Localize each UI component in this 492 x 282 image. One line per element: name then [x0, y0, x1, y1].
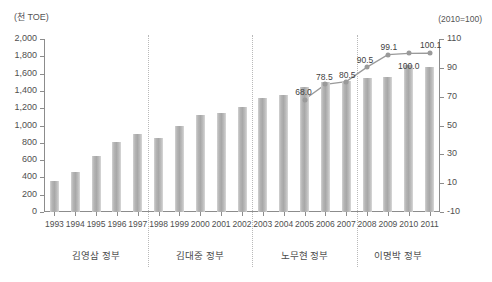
- y2-axis-tick-label: 30: [447, 148, 477, 158]
- bar: [258, 98, 267, 212]
- x-axis-tick: [367, 212, 368, 216]
- chart-root: (천 TOE) (2010=100) 2,0001,8001,6001,4001…: [0, 0, 492, 282]
- y2-axis-tick-label: 50: [447, 120, 477, 130]
- trend-point: [406, 51, 411, 56]
- y-axis-tick: [40, 91, 44, 92]
- x-axis-tick: [388, 212, 389, 216]
- y2-axis-tick-label: 90: [447, 62, 477, 72]
- x-axis-tick-label: 2011: [413, 219, 447, 229]
- x-axis-tick: [430, 212, 431, 216]
- y-axis-tick-label: 0: [1, 206, 37, 216]
- trend-point: [385, 52, 390, 57]
- y-axis-tick: [40, 108, 44, 109]
- trend-point-value-label: 68.0: [295, 87, 312, 97]
- group-divider: [252, 35, 253, 267]
- y2-axis-tick: [440, 212, 444, 213]
- bar: [217, 113, 226, 212]
- x-axis-tick: [200, 212, 201, 216]
- x-axis-tick: [54, 212, 55, 216]
- x-axis-tick: [263, 212, 264, 216]
- group-label: 김대중 정부: [140, 248, 260, 262]
- x-axis-tick: [179, 212, 180, 216]
- left-axis-unit-label: (천 TOE): [14, 10, 49, 23]
- group-divider: [357, 35, 358, 267]
- bar: [112, 142, 121, 212]
- bar: [383, 77, 392, 212]
- x-axis-tick: [221, 212, 222, 216]
- y-axis-tick-label: 2,000: [1, 33, 37, 43]
- right-axis-unit-label: (2010=100): [438, 14, 482, 24]
- trend-point-value-label: 100.1: [420, 40, 441, 50]
- bar: [133, 134, 142, 212]
- y2-axis-tick-label: -10: [447, 206, 477, 216]
- trend-point: [365, 65, 370, 70]
- y-axis-tick-label: 600: [1, 154, 37, 164]
- trend-point-value-label: 80.5: [339, 70, 356, 80]
- x-axis-tick: [284, 212, 285, 216]
- group-label: 이명박 정부: [338, 248, 458, 262]
- y-axis-tick: [40, 212, 44, 213]
- trend-point: [302, 97, 307, 102]
- trend-point: [427, 51, 432, 56]
- x-axis-tick: [409, 212, 410, 216]
- y-axis-tick-label: 1,000: [1, 120, 37, 130]
- trend-point-value-label: 78.5: [316, 72, 333, 82]
- y2-axis-tick: [440, 154, 444, 155]
- bar: [175, 126, 184, 212]
- bar: [238, 107, 247, 212]
- y-axis-tick: [40, 143, 44, 144]
- y-axis-tick: [40, 39, 44, 40]
- bar: [425, 67, 434, 212]
- y-axis-tick-label: 1,800: [1, 50, 37, 60]
- y2-axis-tick-label: 10: [447, 177, 477, 187]
- bar: [279, 95, 288, 212]
- y-axis-tick: [40, 126, 44, 127]
- y2-axis-tick-label: 110: [447, 33, 477, 43]
- y-axis-tick-label: 1,600: [1, 68, 37, 78]
- bar: [404, 65, 413, 212]
- trend-point-value-label: 99.1: [381, 42, 398, 52]
- y-axis-tick-label: 800: [1, 137, 37, 147]
- x-axis-tick: [305, 212, 306, 216]
- group-label: 김영삼 정부: [36, 248, 156, 262]
- y-axis-tick-label: 1,200: [1, 102, 37, 112]
- trend-point-value-label: 90.5: [357, 55, 374, 65]
- bar: [71, 172, 80, 212]
- y-axis-tick: [40, 195, 44, 196]
- bar: [321, 82, 330, 212]
- bar: [196, 115, 205, 212]
- y2-axis-tick: [440, 126, 444, 127]
- x-axis-tick: [138, 212, 139, 216]
- x-axis-tick: [96, 212, 97, 216]
- bar: [50, 181, 59, 212]
- x-axis-tick: [242, 212, 243, 216]
- trend-point: [344, 79, 349, 84]
- x-axis-tick: [75, 212, 76, 216]
- y-axis-tick-label: 400: [1, 171, 37, 181]
- y-axis-tick-label: 200: [1, 189, 37, 199]
- y-axis-tick-label: 1,400: [1, 85, 37, 95]
- group-divider: [148, 35, 149, 267]
- bar: [92, 156, 101, 212]
- y-axis-tick: [40, 74, 44, 75]
- y-axis-tick: [40, 177, 44, 178]
- y2-axis-tick: [440, 97, 444, 98]
- trend-point: [323, 82, 328, 87]
- y-axis-tick: [40, 56, 44, 57]
- bar: [363, 78, 372, 212]
- y2-axis-tick: [440, 183, 444, 184]
- left-axis-line: [44, 39, 45, 212]
- x-axis-tick: [159, 212, 160, 216]
- x-axis-tick: [346, 212, 347, 216]
- y-axis-tick: [40, 160, 44, 161]
- x-axis-tick: [117, 212, 118, 216]
- y2-axis-tick-label: 70: [447, 91, 477, 101]
- bar: [300, 87, 309, 212]
- trend-point-value-label: 100.0: [398, 61, 419, 71]
- bar: [342, 81, 351, 212]
- bar: [154, 138, 163, 212]
- y2-axis-tick: [440, 68, 444, 69]
- x-axis-tick: [325, 212, 326, 216]
